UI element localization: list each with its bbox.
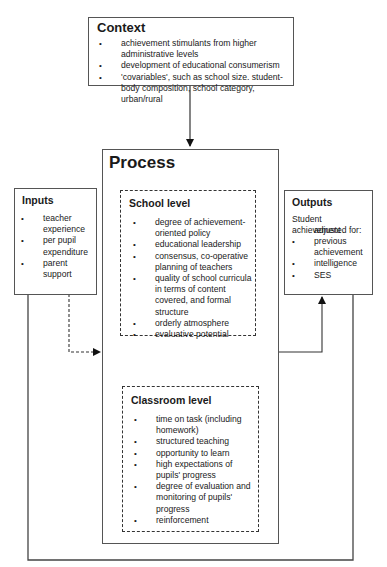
list-item: teacher experience	[43, 213, 97, 235]
inputs-to-process-dashed-arrow	[69, 294, 100, 352]
classroom-level-title: Classroom level	[131, 394, 212, 406]
list-item: SES	[314, 270, 372, 281]
context-title: Context	[97, 20, 145, 35]
inputs-title: Inputs	[22, 194, 54, 206]
inputs-list: teacher experience per pupil expenditure…	[43, 213, 97, 280]
outputs-title: Outputs	[292, 196, 332, 208]
list-item: parent support	[43, 258, 97, 280]
list-item: consensus, co-operative planning of teac…	[155, 251, 255, 273]
list-item: reinforcement	[156, 515, 258, 526]
school-level-list: degree of achievement-oriented policy ed…	[155, 217, 255, 340]
outputs-intro-adjusted: adjusted for:	[314, 225, 361, 236]
outputs-box: Outputs Student achievement adjusted for…	[284, 190, 373, 295]
list-item: development of educational consumerism	[121, 60, 291, 71]
outputs-list: previous achievement intelligence SES	[314, 236, 372, 281]
list-item: opportunity to learn	[156, 448, 258, 459]
list-item: high expectations of pupils' progress	[156, 459, 258, 481]
list-item: per pupil expenditure	[43, 235, 97, 257]
classroom-level-list: time on task (including homework) struct…	[156, 414, 258, 526]
list-item: achievement stimulants from higher admin…	[121, 38, 291, 60]
list-item: educational leadership	[155, 239, 255, 250]
process-title: Process	[109, 153, 175, 173]
context-list: achievement stimulants from higher admin…	[121, 38, 291, 105]
context-box: Context achievement stimulants from high…	[88, 17, 294, 86]
list-item: time on task (including homework)	[156, 414, 258, 436]
list-item: degree of achievement-oriented policy	[155, 217, 255, 239]
inputs-box: Inputs teacher experience per pupil expe…	[14, 188, 97, 295]
school-level-box: School level degree of achievement-orien…	[120, 190, 256, 336]
process-to-outputs-arrow	[278, 297, 322, 352]
list-item: intelligence	[314, 258, 372, 269]
list-item: evaluative potential	[155, 329, 255, 340]
list-item: degree of evaluation and monitoring of p…	[156, 481, 258, 515]
list-item: quality of school curricula in terms of …	[155, 273, 255, 318]
list-item: previous achievement	[314, 236, 372, 258]
school-level-title: School level	[129, 197, 190, 209]
list-item: orderly atmosphere	[155, 318, 255, 329]
classroom-level-box: Classroom level time on task (including …	[122, 386, 259, 532]
list-item: structured teaching	[156, 436, 258, 447]
list-item: 'covariables', such as school size. stud…	[121, 72, 291, 106]
